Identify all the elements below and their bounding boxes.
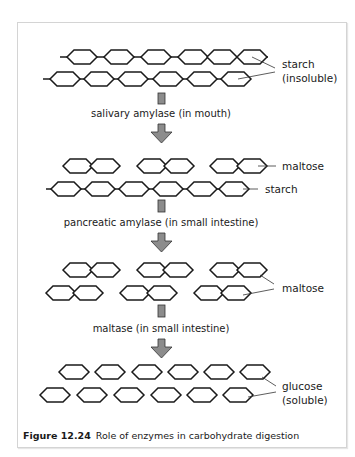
starch-chain-bottom (43, 72, 251, 86)
figure-caption: Figure 12.24Role of enzymes in carbohydr… (23, 430, 299, 441)
arrow-shaft-2 (158, 200, 165, 212)
starch-chain-top (60, 50, 268, 64)
label-maltose-1: maltose (282, 160, 324, 172)
figure-caption-text: Role of enzymes in carbohydrate digestio… (96, 430, 299, 441)
step-pancreatic-amylase: pancreatic amylase (in small intestine) (64, 217, 259, 228)
arrow-down-icon (151, 339, 172, 358)
starch-chain-partial (46, 182, 249, 196)
label-starch: starch (282, 58, 315, 70)
step-maltase: maltase (in small intestine) (93, 323, 230, 334)
label-soluble: (soluble) (282, 394, 328, 406)
arrow-shaft-3 (158, 305, 165, 317)
arrow-shaft-1 (158, 93, 165, 104)
maltose-rows (46, 263, 267, 300)
digestion-diagram: starch (insoluble) salivary amylase (in … (0, 0, 355, 457)
label-starch-2: starch (265, 183, 298, 195)
maltose-row (63, 159, 267, 173)
arrow-down-icon (151, 233, 172, 252)
step-salivary-amylase: salivary amylase (in mouth) (91, 108, 231, 119)
arrow-down-icon (151, 124, 172, 143)
figure-number: Figure 12.24 (23, 430, 91, 441)
label-insoluble: (insoluble) (282, 72, 337, 84)
glucose-rows (40, 365, 270, 402)
label-glucose: glucose (282, 380, 322, 392)
label-maltose-2: maltose (282, 282, 324, 294)
